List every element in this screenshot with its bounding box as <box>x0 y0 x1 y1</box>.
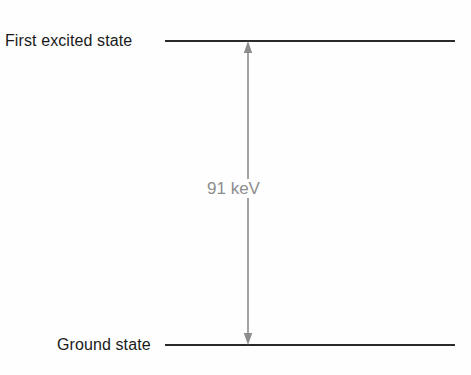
transition-energy-label: 91 keV <box>207 179 260 198</box>
first-excited-state-label: First excited state <box>5 33 132 49</box>
ground-state-line <box>165 344 455 346</box>
ground-state-label: Ground state <box>57 337 151 353</box>
first-excited-state-line <box>165 40 455 42</box>
energy-level-diagram: First excited state Ground state 91 keV <box>0 0 471 375</box>
